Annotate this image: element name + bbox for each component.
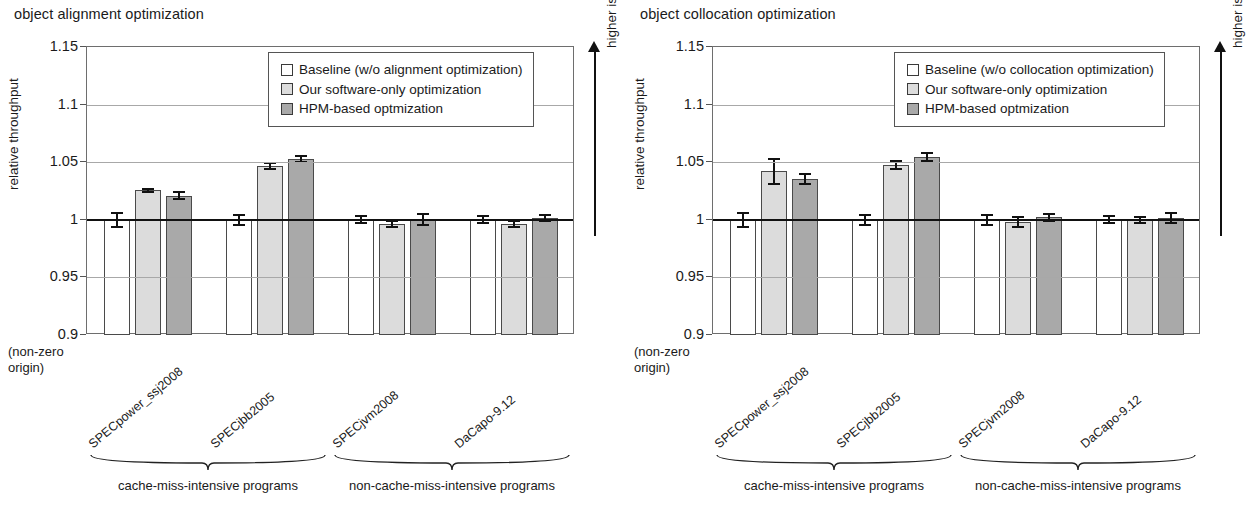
group-brace [334,454,570,472]
x-axis-labels: SPECpower_ssj2008SPECjbb2005SPECjvm2008D… [0,0,626,511]
x-axis-tick-label: DaCapo-9.12 [452,392,518,451]
group-brace-label: cache-miss-intensive programs [90,478,326,493]
group-brace-label: non-cache-miss-intensive programs [960,478,1196,493]
group-brace [716,454,952,472]
group-brace [960,454,1196,472]
x-axis-tick-label: DaCapo-9.12 [1078,392,1144,451]
group-brace-label: cache-miss-intensive programs [716,478,952,493]
chart-panel-collocation: object collocation optimization 0.90.951… [626,0,1252,511]
x-axis-tick-label: SPECjvm2008 [956,388,1027,451]
chart-panel-alignment: object alignment optimization 0.90.9511.… [0,0,626,511]
x-axis-labels: SPECpower_ssj2008SPECjbb2005SPECjvm2008D… [626,0,1252,511]
group-brace-label: non-cache-miss-intensive programs [334,478,570,493]
x-axis-tick-label: SPECpower_ssj2008 [86,364,185,451]
group-brace [90,454,326,472]
x-axis-tick-label: SPECjvm2008 [330,388,401,451]
x-axis-tick-label: SPECjbb2005 [834,390,903,451]
x-axis-tick-label: SPECpower_ssj2008 [712,364,811,451]
x-axis-tick-label: SPECjbb2005 [208,390,277,451]
